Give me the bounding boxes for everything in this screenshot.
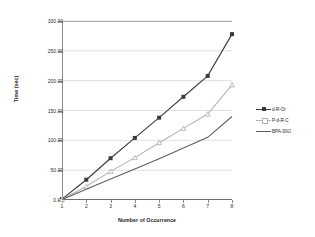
series-line-0 xyxy=(62,34,232,199)
data-point xyxy=(157,140,162,144)
data-point xyxy=(181,126,186,130)
legend-item-0[interactable]: d-R-Or xyxy=(256,104,314,115)
data-point xyxy=(181,95,185,99)
data-point xyxy=(230,32,234,36)
legend-swatch-icon xyxy=(256,106,271,114)
chart-figure: 0.0050.00100.00150.00200.00250.00300.00 … xyxy=(0,0,315,237)
data-point xyxy=(133,136,137,140)
data-point xyxy=(157,116,161,120)
data-point xyxy=(109,156,113,160)
legend-swatch-icon xyxy=(256,117,271,125)
data-point xyxy=(230,82,235,86)
y-axis-title: Time (sec) xyxy=(13,59,19,119)
x-axis-title: Number of Occurrence xyxy=(62,217,232,223)
legend-item-1[interactable]: P-d-R-C xyxy=(256,115,314,126)
data-point xyxy=(132,155,137,159)
legend-label: d-R-Or xyxy=(272,107,286,112)
legend-label: P-d-R-C xyxy=(272,118,289,123)
legend-label: BPA-SNJ xyxy=(272,129,291,134)
data-point xyxy=(84,178,88,182)
legend-item-2[interactable]: BPA-SNJ xyxy=(256,126,314,137)
legend-swatch-icon xyxy=(256,128,271,136)
data-point xyxy=(84,184,89,188)
data-point xyxy=(108,169,113,173)
chart-legend: d-R-OrP-d-R-CBPA-SNJ xyxy=(256,104,314,137)
series-line-1 xyxy=(62,85,232,200)
data-point xyxy=(206,74,210,78)
